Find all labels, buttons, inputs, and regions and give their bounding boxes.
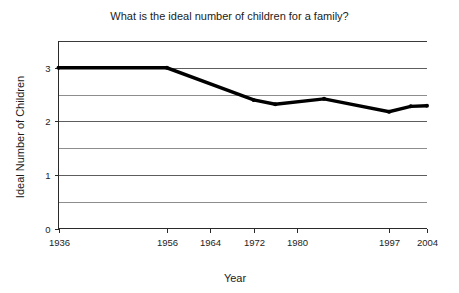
y-tick-label: 0 [45,224,50,235]
x-tick-label: 2004 [417,237,438,248]
data-point-marker [57,66,61,70]
x-tick-label: 1964 [200,237,221,248]
chart-title: What is the ideal number of children for… [110,10,348,22]
chart-figure: What is the ideal number of children for… [0,0,459,293]
data-point-marker [252,98,256,102]
chart-background [0,0,459,293]
data-point-marker [425,104,429,108]
data-point-marker [387,110,391,114]
x-axis-title: Year [224,272,247,284]
line-chart: What is the ideal number of children for… [0,0,459,293]
data-point-marker [273,102,277,106]
x-tick-label: 1980 [287,237,308,248]
x-tick-label: 1956 [157,237,178,248]
y-tick-label: 2 [45,116,50,127]
x-tick-label: 1972 [244,237,265,248]
data-point-marker [322,97,326,101]
y-tick-label: 1 [45,170,50,181]
y-tick-label: 3 [45,63,50,74]
x-tick-label: 1997 [379,237,400,248]
data-point-marker [165,66,169,70]
x-tick-label: 1936 [49,237,70,248]
data-point-marker [409,104,413,108]
y-axis-title: Ideal Number of Children [14,76,26,198]
